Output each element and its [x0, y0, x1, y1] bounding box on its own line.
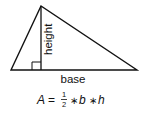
formula-fraction-numerator: 1 [62, 90, 66, 99]
height-label: height [42, 23, 54, 55]
formula-area-symbol: A [36, 93, 45, 107]
formula-multiply-2: ∗ [89, 95, 97, 106]
formula-base-variable: b [79, 93, 86, 107]
formula-height-variable: h [98, 93, 105, 107]
base-label: base [61, 73, 86, 85]
area-formula: A = 1 2 ∗ b ∗ h [36, 90, 105, 109]
right-angle-marker [32, 62, 41, 70]
formula-fraction-denominator: 2 [62, 100, 66, 109]
formula-multiply-1: ∗ [70, 95, 78, 106]
triangle [11, 6, 137, 70]
formula-equals: = [48, 93, 55, 107]
triangle-area-diagram: height base A = 1 2 ∗ b ∗ h [0, 0, 143, 114]
